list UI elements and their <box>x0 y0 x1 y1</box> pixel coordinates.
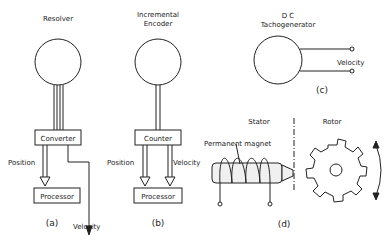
panel-d-reluctance <box>212 118 381 206</box>
counter-label: Counter <box>144 135 172 143</box>
rotor-label: Rotor <box>323 118 342 126</box>
converter-label: Converter <box>41 135 76 143</box>
caption-a: (a) <box>46 218 59 228</box>
stator-label: Stator <box>248 118 270 126</box>
position-label-b: Position <box>107 159 134 167</box>
resolver-circle <box>35 39 81 85</box>
velocity-label-c: Velocity <box>337 59 364 67</box>
caption-d: (d) <box>278 219 291 229</box>
magnet-label: Permanent magnet <box>204 140 272 148</box>
caption-b: (b) <box>152 218 165 228</box>
encoder-title-2: Encoder <box>144 20 173 28</box>
velocity-label-b: Velocity <box>173 159 200 167</box>
diagram-canvas: Resolver Converter Processor Position Ve… <box>0 0 388 246</box>
encoder-circle <box>135 39 181 85</box>
sensor-diagram: Resolver Converter Processor Position Ve… <box>0 0 388 246</box>
caption-c: (c) <box>316 85 328 95</box>
panel-b-encoder <box>134 39 182 203</box>
processor-label-b: Processor <box>141 193 175 201</box>
position-arrow-icon <box>40 177 50 186</box>
position-arrow-icon-b <box>140 177 150 186</box>
velocity-label-a: Velocity <box>73 223 100 231</box>
tacho-title-1: D C <box>282 12 295 20</box>
resolver-title: Resolver <box>43 15 73 23</box>
tacho-circle <box>254 36 302 84</box>
rotor-gear <box>306 139 367 202</box>
tacho-title-2: Tachogenerator <box>260 21 316 29</box>
encoder-title-1: Incremental <box>137 11 179 19</box>
position-label-a: Position <box>8 159 35 167</box>
processor-label-a: Processor <box>40 193 74 201</box>
velocity-arrow-icon-b <box>165 177 175 186</box>
